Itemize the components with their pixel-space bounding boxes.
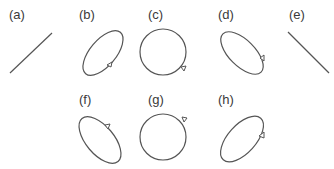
lissajous-figure: (a) (b) (c) (d) (e) (f) (g) (h): [0, 0, 334, 169]
panel-f: (f): [71, 92, 128, 169]
panel-label-a: (a): [9, 7, 25, 22]
panel-a: (a): [9, 7, 52, 73]
line-falling: [288, 32, 329, 73]
direction-arrow-icon: [105, 124, 110, 129]
panel-e: (e): [288, 7, 329, 73]
panel-label-d: (d): [218, 7, 234, 22]
circle: [140, 114, 186, 160]
ellipse-rising: [213, 109, 271, 169]
panel-h: (h): [213, 92, 271, 169]
panel-label-f: (f): [79, 92, 91, 107]
direction-arrow-icon: [182, 117, 187, 122]
panel-b: (b): [76, 7, 131, 82]
panel-label-h: (h): [218, 92, 234, 107]
panel-g: (g): [140, 92, 187, 160]
panel-c: (c): [140, 7, 186, 75]
panel-d: (d): [214, 7, 271, 81]
ellipse-falling: [71, 110, 128, 169]
circle: [140, 29, 186, 75]
panel-label-g: (g): [148, 92, 164, 107]
panel-label-b: (b): [79, 7, 95, 22]
panel-label-c: (c): [148, 7, 163, 22]
ellipse-falling: [214, 25, 271, 82]
direction-arrow-icon: [181, 66, 186, 71]
ellipse-rising: [76, 24, 131, 82]
line-rising: [10, 33, 52, 73]
panel-label-e: (e): [289, 7, 305, 22]
